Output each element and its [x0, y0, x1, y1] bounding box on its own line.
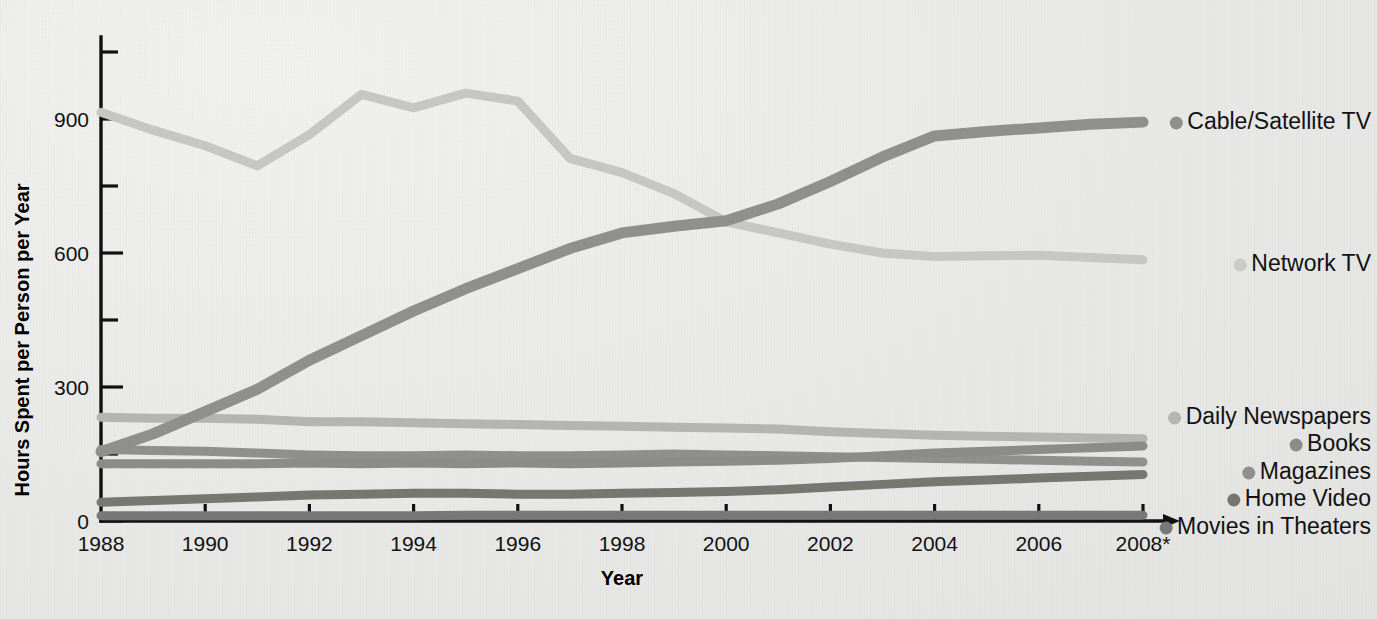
chart-canvas: Hours Spent per Person per Year Year 030…: [0, 0, 1377, 619]
legend-label: Cable/Satellite TV: [1187, 108, 1371, 134]
legend-marker-dot-icon: [1160, 522, 1173, 535]
legend-item-cable-satellite-tv[interactable]: Cable/Satellite TV: [1170, 108, 1372, 134]
series-line-home-video: [101, 475, 1143, 503]
y-axis-tick-label: 300: [54, 376, 89, 399]
media-usage-line-chart: Hours Spent per Person per Year Year 030…: [0, 0, 1377, 619]
legend-label: Home Video: [1245, 485, 1371, 511]
legend-item-movies-in-theaters[interactable]: Movies in Theaters: [1160, 513, 1371, 539]
legend-marker-dot-icon: [1227, 494, 1240, 507]
legend-marker-dot-icon: [1242, 467, 1255, 480]
legend-item-books[interactable]: Books: [1290, 430, 1371, 456]
legend-item-network-tv[interactable]: Network TV: [1234, 250, 1372, 276]
legend-item-magazines[interactable]: Magazines: [1242, 458, 1371, 484]
x-axis-tick-label: 2008*: [1116, 532, 1171, 555]
series-line-daily-newspapers: [101, 417, 1143, 438]
legend-label: Magazines: [1260, 458, 1371, 484]
legend-label: Network TV: [1251, 250, 1371, 276]
x-axis-tick-label: 1988: [78, 532, 125, 555]
x-axis-tick-label: 2000: [703, 532, 750, 555]
x-axis-tick-label: 2004: [911, 532, 958, 555]
y-axis-title: Hours Spent per Person per Year: [11, 183, 33, 496]
legend-marker-dot-icon: [1168, 412, 1181, 425]
y-axis-tick-label: 900: [54, 108, 89, 131]
x-axis-tick-label: 2006: [1015, 532, 1062, 555]
x-axis-tick-label: 1992: [286, 532, 333, 555]
y-axis-tick-label: 0: [77, 510, 89, 533]
legend-marker-dot-icon: [1170, 117, 1183, 130]
legend-label: Books: [1307, 430, 1371, 456]
x-axis-tick-label: 1994: [390, 532, 437, 555]
x-axis-tick-label: 1996: [494, 532, 541, 555]
series-lines: [101, 93, 1143, 516]
legend-label: Movies in Theaters: [1177, 513, 1371, 539]
legend-item-home-video[interactable]: Home Video: [1227, 485, 1371, 511]
x-axis-tick-label: 1990: [182, 532, 229, 555]
legend-marker-dot-icon: [1234, 259, 1247, 272]
x-axis-title: Year: [601, 567, 643, 589]
y-axis-tick-label: 600: [54, 242, 89, 265]
legend-marker-dot-icon: [1290, 439, 1303, 452]
chart-legend: Cable/Satellite TVNetwork TVDaily Newspa…: [1160, 108, 1372, 539]
legend-item-daily-newspapers[interactable]: Daily Newspapers: [1168, 403, 1371, 429]
x-axis-tick-label: 2002: [807, 532, 854, 555]
x-axis-tick-label: 1998: [599, 532, 646, 555]
legend-label: Daily Newspapers: [1186, 403, 1371, 429]
